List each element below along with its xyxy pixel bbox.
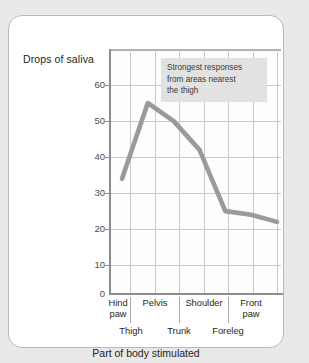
annotation-line-1: Strongest responses [167,62,262,74]
x-label-hind-paw: Hind paw [106,298,130,320]
x-label-hind-paw-line1: Hind [108,298,127,308]
x-label-trunk: Trunk [157,326,201,337]
x-axis-title: Part of body stimulated [9,347,283,359]
y-tick-label-0: 0 [100,288,105,299]
x-label-thigh: Thigh [109,326,153,337]
x-label-pelvis: Pelvis [131,298,179,309]
y-tick-label-60: 60 [94,79,105,90]
y-tick-label-50: 50 [94,115,105,126]
chart-figure: Drops of saliva 60 50 40 30 20 10 0 Stro [8,15,284,348]
annotation-line-3: the thigh [167,85,262,97]
x-label-front-paw: Front paw [229,298,273,320]
y-axis-ticks: 60 50 40 30 20 10 0 [69,49,105,294]
x-label-front-paw-line1: Front [240,298,262,308]
annotation-callout: Strongest responses from areas nearest t… [161,58,267,102]
y-tick-label-10: 10 [94,259,105,270]
x-label-hind-paw-line2: paw [109,309,126,319]
y-tick-label-40: 40 [94,151,105,162]
y-tick-label-30: 30 [94,187,105,198]
x-label-foreleg: Foreleg [203,326,253,337]
x-label-shoulder: Shoulder [180,298,228,309]
x-label-front-paw-line2: paw [242,309,259,319]
y-tick-label-20: 20 [94,223,105,234]
annotation-line-2: from areas nearest [167,74,262,86]
